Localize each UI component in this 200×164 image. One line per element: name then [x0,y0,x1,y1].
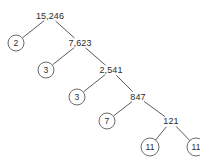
composite-value-label: 121 [163,117,178,126]
prime-factor-label: 7 [105,117,110,126]
branch-line [53,48,74,65]
prime-factor-label: 11 [145,143,154,152]
branch-line [114,102,132,116]
branch-line [86,48,106,65]
prime-factor-label: 3 [44,66,49,75]
branch-line [56,21,75,38]
node-circles-group [8,35,200,156]
prime-factor-label: 11 [191,143,200,152]
branch-line [84,75,105,92]
prime-factor-label: 3 [75,93,80,102]
factor-tree-diagram: 15,24627,62332,541384771211111 [0,0,200,164]
branch-line [23,21,44,38]
composite-value-label: 7,623 [68,39,91,48]
branch-line [176,126,190,140]
branch-line [155,127,166,141]
factor-tree-svg [0,0,200,164]
branch-line [116,75,132,91]
composite-value-label: 2,541 [99,66,122,75]
branch-line [144,101,165,116]
prime-factor-label: 2 [14,39,19,48]
composite-value-label: 847 [130,93,145,102]
composite-value-label: 15,246 [36,12,64,21]
